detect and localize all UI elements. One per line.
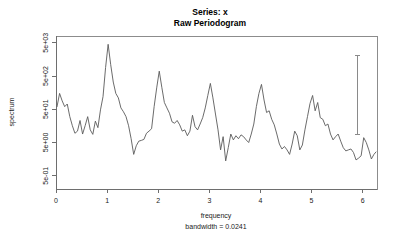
spectrum-series-line [57, 44, 376, 161]
plot-geometry: 01234565e-015e+005e+015e+025e+03 [43, 33, 378, 204]
x-tick-label: 0 [54, 197, 58, 204]
x-tick-label: 6 [361, 197, 365, 204]
y-tick-label: 5e+00 [43, 133, 50, 153]
x-tick-label: 2 [156, 197, 160, 204]
plot-canvas: Series: x Raw Periodogram frequency band… [0, 0, 396, 243]
y-tick-label: 5e+03 [43, 33, 50, 53]
x-axis-label: frequency [201, 212, 232, 220]
y-axis-label: spectrum [8, 97, 16, 126]
y-tick-label: 5e-01 [43, 167, 50, 185]
y-tick-label: 5e+01 [43, 99, 50, 119]
bandwidth-note: bandwidth = 0.0241 [185, 223, 246, 230]
plot-title-sub: Raw Periodogram [174, 18, 247, 28]
periodogram-plot: Series: x Raw Periodogram frequency band… [0, 0, 396, 243]
x-tick-label: 1 [105, 197, 109, 204]
x-tick-label: 3 [207, 197, 211, 204]
x-tick-label: 5 [310, 197, 314, 204]
plot-box-frame [56, 36, 377, 189]
y-tick-label: 5e+02 [43, 66, 50, 86]
x-tick-label: 4 [259, 197, 263, 204]
plot-title-main: Series: x [192, 7, 228, 17]
